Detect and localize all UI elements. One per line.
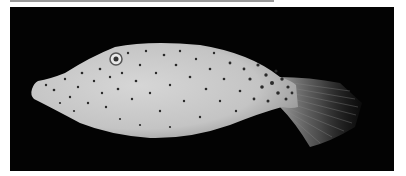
fish-illustration — [10, 7, 394, 171]
fish-photograph — [10, 7, 394, 171]
eye — [110, 53, 122, 65]
top-rule-divider — [10, 0, 274, 2]
